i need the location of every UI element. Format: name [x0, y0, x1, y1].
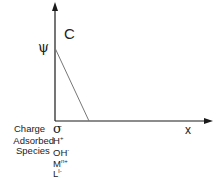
species-oh-minus: OH-: [53, 148, 69, 158]
charge-row-label: Charge: [14, 124, 45, 134]
y-axis-arrowhead-icon: [52, 2, 58, 11]
potential-curve: [55, 48, 89, 121]
species-ligand: Ll-: [53, 169, 62, 178]
charge-symbol-sigma: σ: [53, 122, 62, 135]
species-h-plus: H+: [53, 136, 63, 146]
x-axis-arrowhead-icon: [204, 118, 213, 124]
curve-label-c: C: [64, 26, 75, 41]
species-row-label: Species: [16, 146, 50, 156]
x-axis-label: x: [185, 124, 191, 136]
y-axis-label-psi: ψ: [38, 40, 49, 54]
